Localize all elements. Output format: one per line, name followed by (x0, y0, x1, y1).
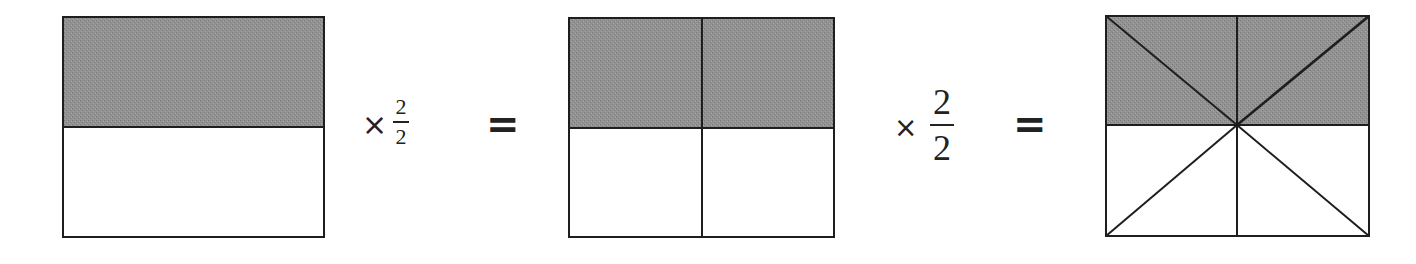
times-sign-1: × (362, 110, 387, 140)
numerator: 2 (396, 95, 407, 119)
numerator: 2 (933, 84, 951, 120)
shaded-region (63, 17, 324, 127)
panel-half (63, 17, 324, 237)
equals-sign-1: = (486, 104, 520, 144)
denominator: 2 (396, 125, 407, 149)
panel-eighths (1106, 16, 1369, 236)
equals-sign-2: = (1013, 104, 1047, 144)
fraction-bar (930, 124, 954, 126)
diagonal-bottom-right (1237, 125, 1369, 236)
panel-quarters (569, 18, 834, 237)
times-sign-2: × (894, 114, 917, 142)
fraction-two-over-two-2: 2 2 (930, 84, 954, 166)
diagonal-bottom-left (1106, 125, 1237, 236)
denominator: 2 (933, 130, 951, 166)
fraction-diagram (0, 0, 1416, 264)
fraction-two-over-two-1: 2 2 (393, 95, 409, 149)
fraction-bar (393, 121, 409, 123)
